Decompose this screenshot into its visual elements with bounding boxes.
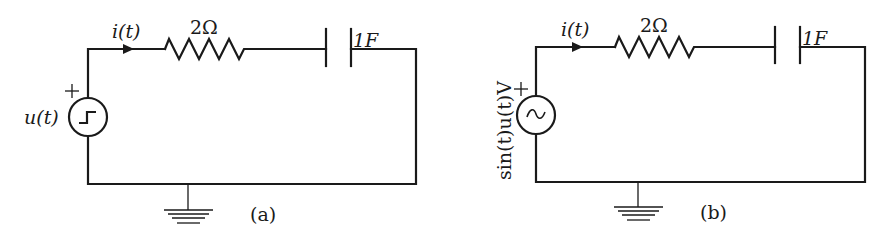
ground-icon [614,182,663,220]
circuit-b: i(t) 2Ω 1F sin(t)u(t)V (b) [493,14,865,223]
caption-a: (a) [250,203,276,225]
capacitor-icon [326,29,351,66]
plus-polarity-icon [65,84,79,98]
ground-icon [164,184,213,223]
resistor-icon [165,39,248,59]
wire-left-top [88,49,165,98]
plus-polarity-icon [514,82,528,96]
current-arrow-icon [572,42,583,52]
capacitor-label: 1F [353,29,379,51]
circuit-figure: i(t) 2Ω 1F u(t) (a) [0,0,891,241]
wire-cap-to-right [536,47,865,182]
circuit-a: i(t) 2Ω 1F u(t) (a) [24,16,416,225]
wire-left-top [536,47,615,96]
resistor-label: 2Ω [640,14,668,36]
current-label: i(t) [561,18,590,40]
resistor-icon [615,37,698,57]
source-label: u(t) [24,106,59,128]
step-source-icon [69,98,107,136]
wire-cap-to-right [88,49,416,184]
capacitor-icon [775,27,800,63]
capacitor-label: 1F [802,27,828,49]
resistor-label: 2Ω [190,16,218,38]
ac-source-icon [517,96,555,134]
current-arrow-icon [123,44,134,54]
source-label: sin(t)u(t)V [493,81,515,180]
caption-b: (b) [700,201,727,223]
current-label: i(t) [112,20,141,42]
